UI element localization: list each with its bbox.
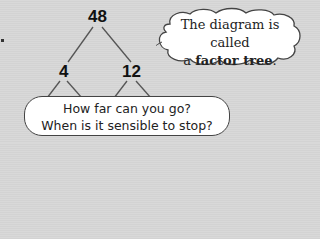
tree-root-node: 48 [88, 8, 107, 25]
speech-line-1: How far can you go? [25, 100, 229, 117]
cloud-line-2-suffix: . [273, 53, 277, 68]
speech-bubble: How far can you go? When is it sensible … [24, 96, 230, 136]
speech-line-2: When is it sensible to stop? [25, 117, 229, 134]
cloud-line-1: The diagram is called [160, 16, 300, 52]
cloud-line-2: a factor tree. [160, 52, 300, 70]
cloud-callout-text: The diagram is called a factor tree. [160, 16, 300, 70]
cloud-line-2-prefix: a [183, 53, 195, 68]
factor-tree-term: factor tree [195, 53, 272, 68]
tree-child-node-12: 12 [122, 63, 141, 80]
tree-child-node-4: 4 [59, 63, 68, 80]
